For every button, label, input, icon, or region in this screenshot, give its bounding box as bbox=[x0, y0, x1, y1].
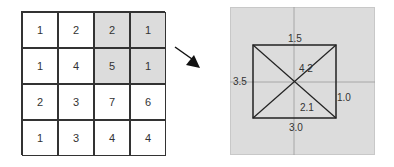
matrix-cell-3-2: 4 bbox=[94, 120, 130, 156]
label-top: 1.5 bbox=[288, 33, 302, 44]
matrix-cell-0-3: 1 bbox=[130, 12, 166, 48]
label-diag-lower: 2.1 bbox=[300, 102, 314, 113]
matrix-cell-3-1: 3 bbox=[58, 120, 94, 156]
matrix-cell-1-2: 5 bbox=[94, 48, 130, 84]
label-left: 3.5 bbox=[233, 76, 247, 87]
matrix-cell-3-3: 4 bbox=[130, 120, 166, 156]
arrow-icon bbox=[172, 43, 204, 71]
gradient-diagram: 1.5 3.5 1.0 3.0 4.2 2.1 bbox=[230, 7, 375, 155]
matrix-cell-1-3: 1 bbox=[130, 48, 166, 84]
label-bottom: 3.0 bbox=[289, 122, 303, 133]
label-diag-upper: 4.2 bbox=[299, 63, 313, 74]
matrix-cell-3-0: 1 bbox=[22, 120, 58, 156]
matrix-cell-2-2: 7 bbox=[94, 84, 130, 120]
label-right: 1.0 bbox=[337, 92, 351, 103]
matrix-cell-1-1: 4 bbox=[58, 48, 94, 84]
value-matrix: 1 2 2 1 1 4 5 1 2 3 7 6 1 3 4 4 bbox=[21, 11, 165, 155]
matrix-cell-1-0: 1 bbox=[22, 48, 58, 84]
matrix-cell-0-1: 2 bbox=[58, 12, 94, 48]
matrix-cell-2-1: 3 bbox=[58, 84, 94, 120]
matrix-cell-2-3: 6 bbox=[130, 84, 166, 120]
matrix-cell-2-0: 2 bbox=[22, 84, 58, 120]
matrix-cell-0-0: 1 bbox=[22, 12, 58, 48]
matrix-cell-0-2: 2 bbox=[94, 12, 130, 48]
